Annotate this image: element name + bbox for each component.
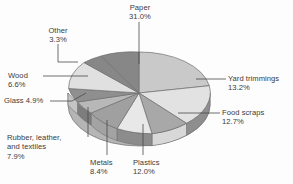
label-rubber-leather-textiles: Rubber, leather, and textiles 7.9%	[7, 133, 87, 161]
label-other: Other 3.3%	[32, 26, 84, 45]
label-glass: Glass 4.9%	[4, 96, 62, 105]
label-paper: Paper 31.0%	[112, 3, 168, 22]
leader-line-other	[58, 44, 78, 62]
label-food-scraps-name: Food scraps	[222, 108, 282, 117]
label-paper-value: 31.0%	[112, 12, 168, 21]
label-plastics-name: Plastics	[133, 158, 177, 167]
label-other-name: Other	[32, 26, 84, 35]
label-metals-name: Metals	[90, 158, 130, 167]
label-rubber-value: 7.9%	[7, 152, 87, 161]
label-plastics-value: 12.0%	[133, 167, 177, 176]
label-paper-name: Paper	[112, 3, 168, 12]
label-rubber-name-line2: and textiles	[7, 142, 87, 151]
label-metals-value: 8.4%	[90, 167, 130, 176]
label-yard-trimmings-name: Yard trimmings	[228, 74, 292, 83]
label-food-scraps: Food scraps 12.7%	[222, 108, 282, 127]
label-food-scraps-value: 12.7%	[222, 117, 282, 126]
label-wood-value: 6.6%	[8, 80, 46, 89]
label-plastics: Plastics 12.0%	[133, 158, 177, 177]
label-metals: Metals 8.4%	[90, 158, 130, 177]
label-other-value: 3.3%	[32, 35, 84, 44]
label-yard-trimmings: Yard trimmings 13.2%	[228, 74, 292, 93]
label-wood: Wood 6.6%	[8, 71, 46, 90]
label-yard-trimmings-value: 13.2%	[228, 83, 292, 92]
label-glass-text: Glass 4.9%	[4, 96, 62, 105]
label-wood-name: Wood	[8, 71, 46, 80]
label-rubber-name-line1: Rubber, leather,	[7, 133, 87, 142]
pie-chart-figure: Paper 31.0% Other 3.3% Wood 6.6% Glass 4…	[0, 0, 293, 184]
